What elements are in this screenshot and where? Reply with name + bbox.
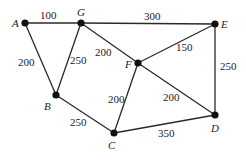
weight-F-D: 200 [163, 91, 180, 103]
node-E [211, 20, 218, 27]
edge-weights: 100300200250200150250200200250350 [18, 9, 237, 139]
node-label-D: D [210, 122, 219, 134]
weight-A-B: 200 [18, 56, 35, 68]
weighted-graph-diagram: 100300200250200150250200200250350 AGEFBC… [0, 0, 246, 163]
edge-F-D [138, 63, 215, 115]
node-C [110, 129, 117, 136]
node-label-A: A [11, 17, 19, 29]
node-B [52, 91, 59, 98]
weight-E-D: 250 [220, 60, 237, 72]
weight-A-G: 100 [40, 9, 57, 21]
node-label-G: G [77, 6, 85, 18]
weight-F-C: 200 [108, 93, 125, 105]
node-label-B: B [44, 100, 51, 112]
edge-G-E [81, 23, 215, 24]
node-label-E: E [220, 18, 228, 30]
node-labels: AGEFBCD [11, 6, 228, 151]
node-D [211, 111, 218, 118]
node-A [21, 19, 28, 26]
node-label-F: F [124, 58, 132, 70]
weight-G-E: 300 [144, 10, 161, 22]
weight-G-F: 200 [95, 46, 112, 58]
weight-G-B: 250 [70, 54, 87, 66]
node-F [134, 59, 141, 66]
node-label-C: C [108, 139, 116, 151]
weight-F-E: 150 [176, 41, 193, 53]
weight-C-D: 350 [158, 127, 175, 139]
node-G [77, 19, 84, 26]
edges [25, 23, 215, 133]
weight-B-C: 250 [70, 116, 87, 128]
